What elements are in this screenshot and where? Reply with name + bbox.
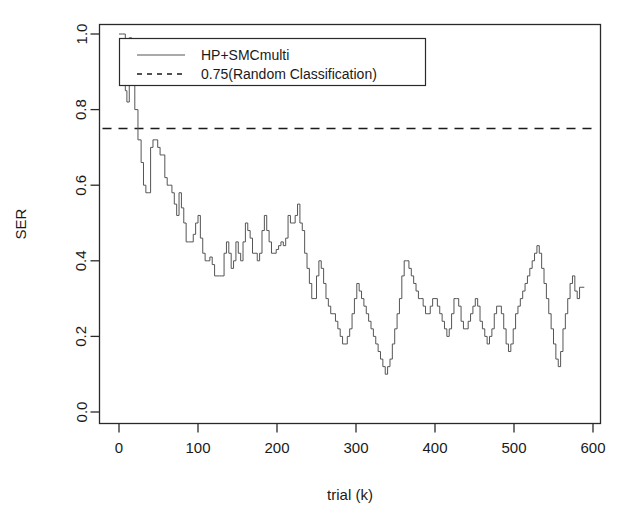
y-axis-tick-labels: 0.00.20.40.60.81.0	[73, 24, 90, 423]
y-tick-label-0.2: 0.2	[73, 326, 90, 347]
x-tick-label-100: 100	[185, 439, 210, 456]
y-tick-label-0.0: 0.0	[73, 402, 90, 423]
y-tick-label-0.6: 0.6	[73, 175, 90, 196]
chart-figure: 0100200300400500600 0.00.20.40.60.81.0 t…	[0, 0, 630, 524]
x-tick-label-400: 400	[422, 439, 447, 456]
chart-legend: HP+SMCmulti 0.75(Random Classification)	[120, 39, 426, 86]
x-tick-label-300: 300	[343, 439, 368, 456]
ser-line-chart: 0100200300400500600 0.00.20.40.60.81.0 t…	[0, 0, 630, 524]
x-tick-label-200: 200	[264, 439, 289, 456]
x-axis-tick-labels: 0100200300400500600	[115, 439, 606, 456]
x-tick-label-500: 500	[501, 439, 526, 456]
y-axis-ticks	[91, 34, 100, 412]
x-axis-title: trial (k)	[327, 486, 373, 503]
x-tick-label-600: 600	[580, 439, 605, 456]
legend-entry-label-0: HP+SMCmulti	[201, 47, 289, 63]
legend-entry-label-1: 0.75(Random Classification)	[201, 66, 377, 82]
y-axis-title: SER	[12, 208, 29, 239]
x-tick-label-0: 0	[115, 439, 123, 456]
y-tick-label-0.8: 0.8	[73, 99, 90, 120]
y-tick-label-0.4: 0.4	[73, 250, 90, 271]
x-axis-ticks	[119, 424, 593, 433]
y-tick-label-1.0: 1.0	[73, 24, 90, 45]
